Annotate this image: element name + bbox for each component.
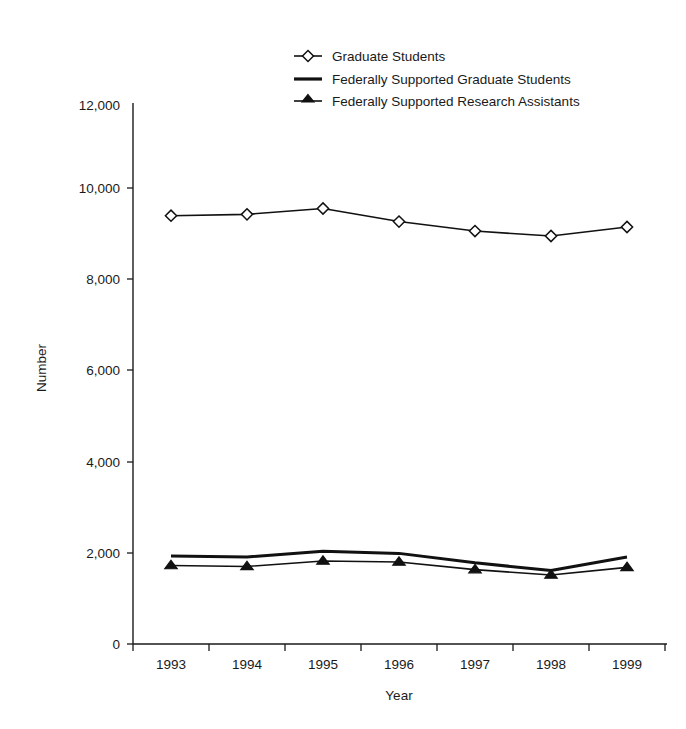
data-point-filled-triangle[interactable] <box>317 556 329 564</box>
plot-axes: 12,000 10,000 8,000 6,000 4,000 2,000 0 <box>34 98 667 703</box>
y-tick-label: 12,000 <box>79 98 120 113</box>
legend-label: Federally Supported Research Assistants <box>332 94 580 109</box>
data-point-filled-triangle[interactable] <box>621 562 633 570</box>
x-tick-label: 1993 <box>156 657 186 672</box>
x-axis-tick-labels: 1993 1994 1995 1996 1997 1998 1999 <box>156 657 642 672</box>
data-point-open-diamond[interactable] <box>241 209 252 220</box>
legend-item-federally-supported-graduate-students[interactable]: Federally Supported Graduate Students <box>294 72 571 87</box>
legend-item-federally-supported-research-assistants[interactable]: Federally Supported Research Assistants <box>294 94 580 109</box>
x-tick-label: 1997 <box>460 657 490 672</box>
x-tick-label: 1995 <box>308 657 338 672</box>
legend-label: Federally Supported Graduate Students <box>332 72 571 87</box>
y-tick-label: 10,000 <box>79 181 120 196</box>
y-tick-label: 2,000 <box>86 546 120 561</box>
data-point-open-diamond[interactable] <box>621 221 632 232</box>
data-series-layer <box>165 203 633 578</box>
y-axis-ticks <box>127 188 133 644</box>
data-point-open-diamond[interactable] <box>165 210 176 221</box>
data-point-open-diamond[interactable] <box>545 230 556 241</box>
data-point-open-diamond[interactable] <box>393 216 404 227</box>
data-point-filled-triangle[interactable] <box>393 557 405 565</box>
x-tick-label: 1996 <box>384 657 414 672</box>
data-point-filled-triangle[interactable] <box>165 560 177 568</box>
filled-triangle-icon <box>302 95 314 103</box>
x-axis-title: Year <box>385 688 413 703</box>
data-point-open-diamond[interactable] <box>469 225 480 236</box>
y-tick-label: 8,000 <box>86 272 120 287</box>
chart-legend: Graduate Students Federally Supported Gr… <box>294 49 580 109</box>
legend-label: Graduate Students <box>332 49 446 64</box>
y-tick-label: 0 <box>112 637 120 652</box>
data-point-open-diamond[interactable] <box>317 203 328 214</box>
y-axis-tick-labels: 12,000 10,000 8,000 6,000 4,000 2,000 0 <box>79 98 120 652</box>
legend-item-graduate-students[interactable]: Graduate Students <box>294 49 446 64</box>
x-tick-label: 1998 <box>536 657 566 672</box>
y-tick-label: 6,000 <box>86 363 120 378</box>
open-diamond-icon <box>303 51 314 62</box>
line-chart: Graduate Students Federally Supported Gr… <box>0 0 686 729</box>
y-axis-title: Number <box>34 343 49 392</box>
x-axis-ticks <box>133 644 665 651</box>
series-markers-graduate-students <box>165 203 632 242</box>
chart-figure: Graduate Students Federally Supported Gr… <box>0 0 686 729</box>
x-tick-label: 1999 <box>612 657 642 672</box>
x-tick-label: 1994 <box>232 657 263 672</box>
y-tick-label: 4,000 <box>86 455 120 470</box>
